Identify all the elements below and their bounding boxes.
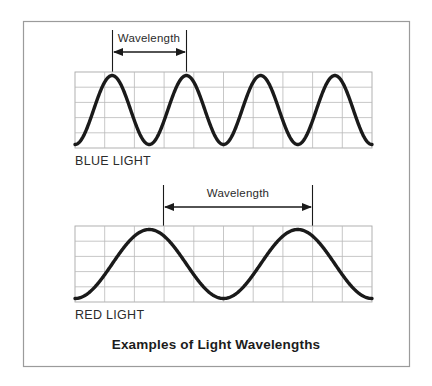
blue-arrow-head-left: [113, 48, 123, 56]
light-wavelength-diagram: Wavelength: [0, 0, 432, 386]
blue-light-measure: Wavelength: [113, 30, 187, 72]
blue-light-label: BLUE LIGHT: [75, 154, 151, 168]
blue-light-section: Wavelength: [75, 30, 372, 168]
red-light-measure: Wavelength: [164, 185, 313, 226]
red-light-label: RED LIGHT: [75, 308, 144, 322]
red-light-grid: [75, 226, 372, 302]
red-wavelength-label: Wavelength: [207, 187, 269, 199]
blue-wavelength-label: Wavelength: [118, 32, 180, 44]
red-arrow-head-left: [164, 203, 174, 211]
red-light-section: Wavelength: [75, 185, 372, 322]
blue-arrow-head-right: [176, 48, 186, 56]
red-arrow-head-right: [302, 203, 312, 211]
figure-root: Wavelength: [0, 0, 432, 386]
figure-title: Examples of Light Wavelengths: [112, 337, 321, 352]
